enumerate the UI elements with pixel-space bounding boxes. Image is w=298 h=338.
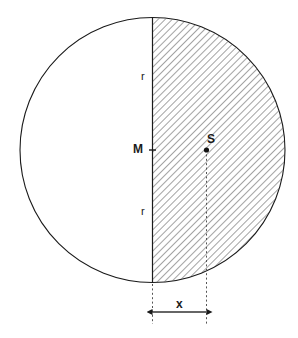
centroid-label: S bbox=[207, 133, 215, 145]
centroid-point bbox=[204, 147, 209, 152]
center-label: M bbox=[133, 143, 143, 155]
geometry-figure: r r M S x bbox=[0, 0, 298, 338]
radius-label-top: r bbox=[141, 71, 145, 82]
geometry-canvas bbox=[0, 0, 298, 338]
radius-label-bottom: r bbox=[141, 206, 145, 217]
distance-label: x bbox=[176, 298, 183, 310]
